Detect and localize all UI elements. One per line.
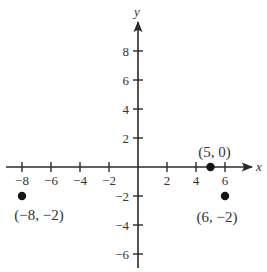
x-tick-label: −4 <box>73 173 87 188</box>
x-tick-label: 6 <box>222 173 229 188</box>
x-tick-label: −8 <box>15 173 29 188</box>
data-point-label: (6, −2) <box>197 209 238 226</box>
y-axis-label: y <box>132 4 140 19</box>
x-tick-label: −2 <box>102 173 116 188</box>
y-tick-label: 4 <box>123 102 130 117</box>
tick-marks: −8−6−4−22468642−2−4−6 <box>15 44 229 262</box>
y-tick-label: 6 <box>123 73 130 88</box>
data-point <box>18 192 26 200</box>
data-point <box>221 192 229 200</box>
data-point <box>206 163 214 171</box>
y-tick-label: 8 <box>123 44 130 59</box>
x-tick-label: −6 <box>44 173 58 188</box>
x-tick-label: 2 <box>164 173 171 188</box>
data-point-label: (5, 0) <box>198 144 231 161</box>
x-tick-label: 4 <box>193 173 200 188</box>
y-tick-label: 2 <box>123 131 130 146</box>
x-axis-label: x <box>255 159 262 174</box>
y-tick-label: −2 <box>115 189 129 204</box>
y-tick-label: −6 <box>115 247 129 262</box>
coordinate-plane: x y −8−6−4−22468642−2−4−6 (−8, −2)(5, 0)… <box>0 0 267 272</box>
y-tick-label: −4 <box>115 218 129 233</box>
data-point-label: (−8, −2) <box>14 207 63 224</box>
